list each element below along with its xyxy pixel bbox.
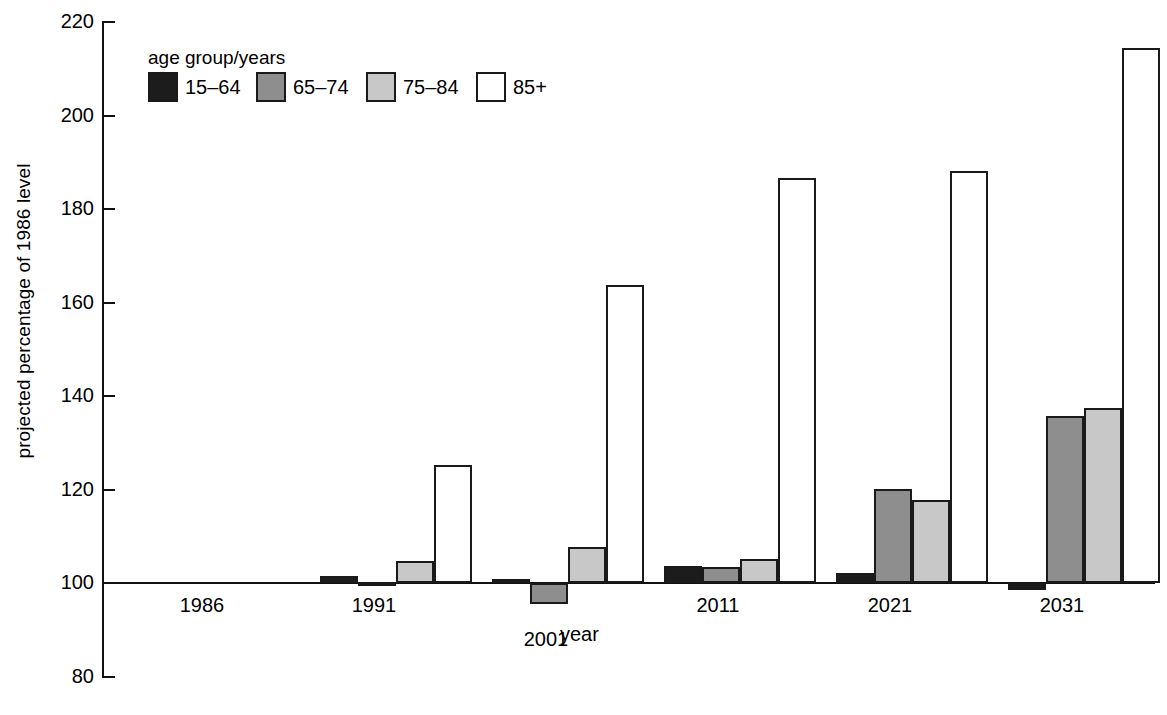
legend-label-15-64: 15–64 xyxy=(185,77,241,97)
legend-item-75-84[interactable]: 75–84 xyxy=(366,72,459,102)
y-axis-title: projected percentage of 1986 level xyxy=(13,91,35,531)
legend-label-85-plus: 85+ xyxy=(513,77,547,97)
y-axis-line xyxy=(102,22,104,677)
bar-2021-65-74[interactable] xyxy=(874,489,912,583)
y-tick-label: 140 xyxy=(38,385,94,405)
legend-swatch-75-84-icon xyxy=(366,72,396,102)
bar-2031-75-84[interactable] xyxy=(1084,408,1122,583)
y-tick-mark xyxy=(102,21,115,23)
chart-root: projected percentage of 1986 level 80100… xyxy=(0,0,1167,715)
bar-2021-15-64[interactable] xyxy=(836,573,874,583)
x-tick-label-2031: 2031 xyxy=(1008,595,1116,615)
legend-swatch-85-plus-icon xyxy=(476,72,506,102)
bar-2031-15-64[interactable] xyxy=(1008,583,1046,590)
x-tick-label-1991: 1991 xyxy=(320,595,428,615)
bar-2011-75-84[interactable] xyxy=(740,559,778,583)
y-tick-mark xyxy=(102,395,115,397)
bar-2001-75-84[interactable] xyxy=(568,547,606,583)
legend-item-65-74[interactable]: 65–74 xyxy=(256,72,349,102)
y-tick-mark xyxy=(102,676,115,678)
y-tick-label: 80 xyxy=(38,666,94,686)
y-tick-mark xyxy=(102,489,115,491)
legend-label-75-84: 75–84 xyxy=(403,77,459,97)
bar-2001-65-74[interactable] xyxy=(530,583,568,604)
x-axis-title: year xyxy=(560,624,599,644)
y-tick-label: 200 xyxy=(38,105,94,125)
legend-item-15-64[interactable]: 15–64 xyxy=(148,72,241,102)
bar-2021-85+[interactable] xyxy=(950,171,988,583)
x-tick-label-2011: 2011 xyxy=(664,595,772,615)
y-tick-label: 120 xyxy=(38,479,94,499)
bar-1991-85+[interactable] xyxy=(434,465,472,583)
legend-title: age group/years xyxy=(148,48,285,67)
legend-item-85-plus[interactable]: 85+ xyxy=(476,72,547,102)
bar-1991-15-64[interactable] xyxy=(320,576,358,583)
bar-1991-65-74[interactable] xyxy=(358,582,396,586)
bar-2011-85+[interactable] xyxy=(778,178,816,583)
y-tick-label: 220 xyxy=(38,11,94,31)
bar-1991-75-84[interactable] xyxy=(396,561,434,583)
y-tick-label: 100 xyxy=(38,572,94,592)
x-tick-label-1986: 1986 xyxy=(148,595,256,615)
x-tick-label-2021: 2021 xyxy=(836,595,944,615)
y-tick-mark xyxy=(102,115,115,117)
y-tick-label: 180 xyxy=(38,198,94,218)
legend-label-65-74: 65–74 xyxy=(293,77,349,97)
y-tick-label: 160 xyxy=(38,292,94,312)
bar-2011-15-64[interactable] xyxy=(664,566,702,583)
bar-2011-65-74[interactable] xyxy=(702,567,740,583)
bar-2001-85+[interactable] xyxy=(606,285,644,583)
legend-swatch-15-64-icon xyxy=(148,72,178,102)
y-tick-mark xyxy=(102,302,115,304)
y-tick-mark xyxy=(102,208,115,210)
bar-2001-15-64[interactable] xyxy=(492,579,530,583)
bar-2021-75-84[interactable] xyxy=(912,500,950,583)
bar-2031-85+[interactable] xyxy=(1122,48,1160,583)
bar-2031-65-74[interactable] xyxy=(1046,416,1084,583)
legend-swatch-65-74-icon xyxy=(256,72,286,102)
